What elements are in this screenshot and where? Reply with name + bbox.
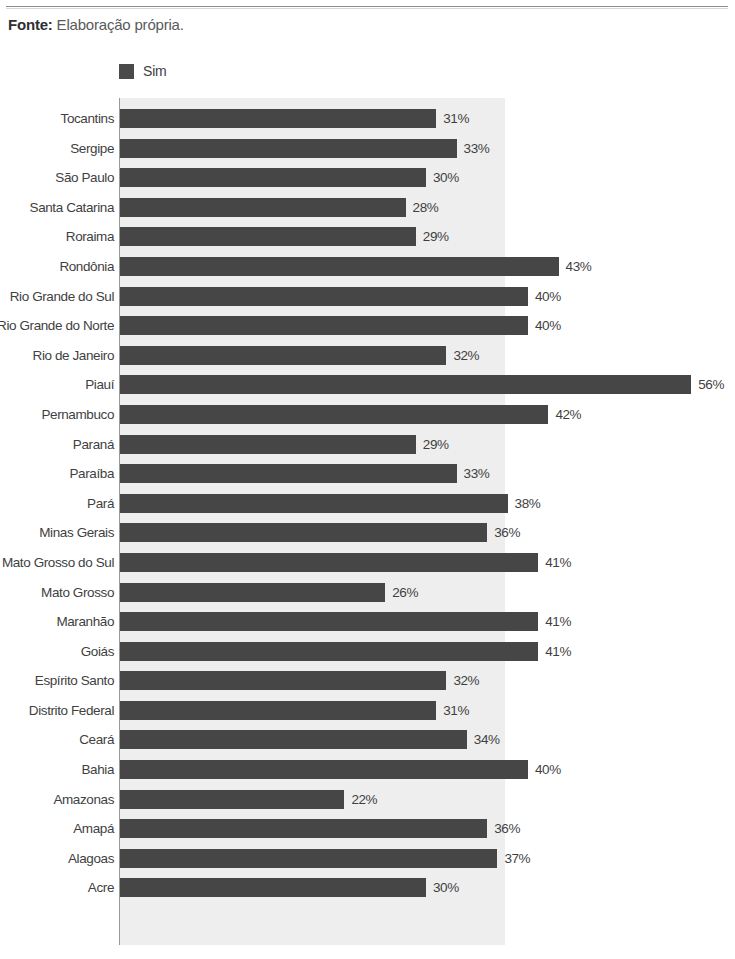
bar-category-label: Mato Grosso do Sul <box>0 553 114 572</box>
bar-category-label: São Paulo <box>0 168 114 187</box>
bar-row: Amapá36% <box>0 819 735 849</box>
bar-row: Distrito Federal31% <box>0 701 735 731</box>
bar-track: 42% <box>120 405 735 424</box>
bar-sim <box>120 819 487 838</box>
bar-value-label: 31% <box>443 110 469 127</box>
bar-value-label: 30% <box>433 879 459 896</box>
bar-value-label: 22% <box>351 791 377 808</box>
bar-category-label: Santa Catarina <box>0 198 114 217</box>
bar-track: 40% <box>120 287 735 306</box>
bar-sim <box>120 287 528 306</box>
bar-track: 28% <box>120 198 735 217</box>
bar-sim <box>120 849 497 868</box>
bar-chart: Tocantins31%Sergipe33%São Paulo30%Santa … <box>0 98 735 948</box>
bar-sim <box>120 583 385 602</box>
bar-value-label: 56% <box>698 376 724 393</box>
bar-track: 33% <box>120 464 735 483</box>
legend-item-label: Sim <box>143 63 167 79</box>
bar-value-label: 32% <box>453 347 479 364</box>
bar-value-label: 40% <box>535 317 561 334</box>
bar-track: 41% <box>120 642 735 661</box>
bar-value-label: 31% <box>443 702 469 719</box>
bar-category-label: Goiás <box>0 642 114 661</box>
bar-row: Paraná29% <box>0 435 735 465</box>
bar-value-label: 41% <box>545 643 571 660</box>
bar-category-label: Roraima <box>0 227 114 246</box>
bar-category-label: Rio Grande do Sul <box>0 287 114 306</box>
bar-track: 30% <box>120 168 735 187</box>
bar-value-label: 41% <box>545 613 571 630</box>
chart-legend: Sim <box>119 63 167 79</box>
bar-track: 29% <box>120 227 735 246</box>
bar-track: 31% <box>120 109 735 128</box>
bar-row: Ceará34% <box>0 730 735 760</box>
bar-category-label: Acre <box>0 878 114 897</box>
bar-row: Rondônia43% <box>0 257 735 287</box>
bar-row: Pará38% <box>0 494 735 524</box>
bar-category-label: Paraíba <box>0 464 114 483</box>
bar-track: 41% <box>120 553 735 572</box>
bar-value-label: 42% <box>555 406 581 423</box>
source-label: Fonte: <box>8 16 53 33</box>
bar-row: Tocantins31% <box>0 109 735 139</box>
bar-row: Espírito Santo32% <box>0 671 735 701</box>
bar-sim <box>120 375 691 394</box>
bar-value-label: 28% <box>413 199 439 216</box>
bar-row: Rio Grande do Norte40% <box>0 316 735 346</box>
bar-sim <box>120 109 436 128</box>
bar-sim <box>120 464 457 483</box>
bar-row: Amazonas22% <box>0 790 735 820</box>
bar-value-label: 30% <box>433 169 459 186</box>
bar-track: 36% <box>120 819 735 838</box>
bar-row: Roraima29% <box>0 227 735 257</box>
bar-sim <box>120 346 446 365</box>
bar-sim <box>120 257 559 276</box>
bar-sim <box>120 671 446 690</box>
bar-category-label: Minas Gerais <box>0 523 114 542</box>
bar-sim <box>120 730 467 749</box>
bar-category-label: Amazonas <box>0 790 114 809</box>
bar-sim <box>120 790 344 809</box>
bar-track: 33% <box>120 139 735 158</box>
bar-row: Bahia40% <box>0 760 735 790</box>
bar-track: 31% <box>120 701 735 720</box>
bar-sim <box>120 878 426 897</box>
bar-category-label: Rio Grande do Norte <box>0 316 114 335</box>
bar-category-label: Rondônia <box>0 257 114 276</box>
bar-track: 37% <box>120 849 735 868</box>
bar-value-label: 36% <box>494 524 520 541</box>
bar-sim <box>120 435 416 454</box>
bar-track: 32% <box>120 671 735 690</box>
bar-track: 32% <box>120 346 735 365</box>
bar-sim <box>120 227 416 246</box>
bar-value-label: 29% <box>423 228 449 245</box>
bar-category-label: Piauí <box>0 375 114 394</box>
bar-value-label: 32% <box>453 672 479 689</box>
bar-value-label: 38% <box>515 495 541 512</box>
bar-value-label: 33% <box>464 465 490 482</box>
bar-sim <box>120 198 406 217</box>
bar-value-label: 26% <box>392 584 418 601</box>
bar-value-label: 33% <box>464 140 490 157</box>
bar-category-label: Mato Grosso <box>0 583 114 602</box>
bar-category-label: Pará <box>0 494 114 513</box>
bar-track: 22% <box>120 790 735 809</box>
bar-category-label: Distrito Federal <box>0 701 114 720</box>
bar-track: 36% <box>120 523 735 542</box>
bar-sim <box>120 139 457 158</box>
bar-value-label: 43% <box>566 258 592 275</box>
bar-value-label: 40% <box>535 288 561 305</box>
bar-row: Rio de Janeiro32% <box>0 346 735 376</box>
bar-sim <box>120 642 538 661</box>
legend-swatch-icon <box>119 64 134 79</box>
bar-row: Paraíba33% <box>0 464 735 494</box>
bar-category-label: Ceará <box>0 730 114 749</box>
bar-category-label: Espírito Santo <box>0 671 114 690</box>
bar-track: 40% <box>120 316 735 335</box>
bar-value-label: 34% <box>474 731 500 748</box>
bar-category-label: Amapá <box>0 819 114 838</box>
bar-sim <box>120 553 538 572</box>
bar-row: Goiás41% <box>0 642 735 672</box>
bar-category-label: Alagoas <box>0 849 114 868</box>
bar-sim <box>120 523 487 542</box>
